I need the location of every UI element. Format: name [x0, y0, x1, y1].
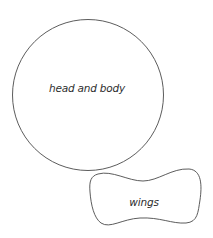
diagram-svg [0, 0, 213, 238]
wings-label: wings [129, 196, 158, 208]
diagram-canvas: head and body wings [0, 0, 213, 238]
head-and-body-circle [13, 20, 164, 171]
head-and-body-label: head and body [49, 82, 125, 94]
